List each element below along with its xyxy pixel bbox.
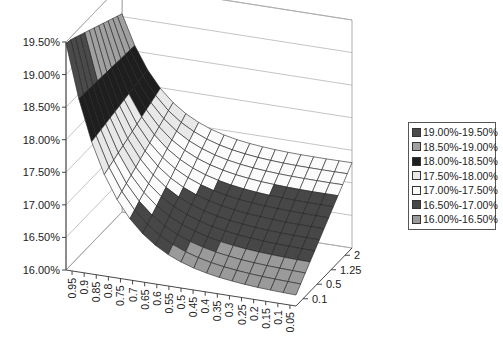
svg-text:0.6: 0.6	[151, 291, 163, 306]
legend-item: 16.00%-16.50%	[412, 212, 495, 227]
legend-item: 19.00%-19.50%	[412, 125, 495, 140]
legend-swatch-icon	[412, 142, 421, 151]
svg-text:0.5: 0.5	[175, 295, 187, 310]
svg-text:16.50%: 16.50%	[23, 231, 61, 243]
svg-text:17.00%: 17.00%	[23, 199, 61, 211]
svg-text:0.35: 0.35	[211, 301, 223, 322]
svg-text:0.1: 0.1	[272, 310, 284, 325]
svg-text:0.55: 0.55	[163, 293, 175, 314]
svg-text:0.95: 0.95	[66, 278, 78, 299]
legend-label: 16.00%-16.50%	[423, 213, 498, 225]
legend-label: 18.00%-18.50%	[423, 155, 498, 167]
legend-swatch-icon	[412, 157, 421, 166]
svg-text:0.75: 0.75	[114, 285, 126, 306]
legend-swatch-icon	[412, 171, 421, 180]
svg-text:0.1: 0.1	[312, 293, 327, 305]
svg-text:0.45: 0.45	[187, 297, 199, 318]
legend-swatch-icon	[412, 200, 421, 209]
svg-text:0.7: 0.7	[127, 287, 139, 302]
legend-swatch-icon	[412, 186, 421, 195]
svg-text:0.3: 0.3	[223, 302, 235, 317]
svg-text:1.25: 1.25	[340, 264, 361, 276]
legend: 19.00%-19.50%18.50%-19.00%18.00%-18.50%1…	[408, 122, 496, 230]
legend-swatch-icon	[412, 128, 421, 137]
legend-label: 16.50%-17.00%	[423, 199, 498, 211]
svg-text:19.50%: 19.50%	[23, 36, 61, 48]
svg-text:19.00%: 19.00%	[23, 69, 61, 81]
legend-item: 17.50%-18.00%	[412, 169, 495, 184]
svg-text:0.5: 0.5	[326, 278, 341, 290]
legend-item: 16.50%-17.00%	[412, 198, 495, 213]
legend-item: 18.50%-19.00%	[412, 140, 495, 155]
svg-text:0.85: 0.85	[90, 282, 102, 303]
svg-text:18.50%: 18.50%	[23, 101, 61, 113]
legend-label: 19.00%-19.50%	[423, 126, 498, 138]
legend-label: 18.50%-19.00%	[423, 141, 498, 153]
svg-text:0.25: 0.25	[236, 304, 248, 325]
svg-text:0.05: 0.05	[284, 312, 296, 333]
svg-text:2: 2	[354, 249, 360, 261]
legend-item: 17.00%-17.50%	[412, 183, 495, 198]
svg-text:0.2: 0.2	[248, 306, 260, 321]
legend-label: 17.00%-17.50%	[423, 184, 498, 196]
svg-text:0.8: 0.8	[102, 283, 114, 298]
svg-text:0.4: 0.4	[199, 299, 211, 314]
svg-text:17.50%: 17.50%	[23, 166, 61, 178]
svg-text:18.00%: 18.00%	[23, 134, 61, 146]
svg-text:16.00%: 16.00%	[23, 264, 61, 276]
legend-label: 17.50%-18.00%	[423, 170, 498, 182]
legend-item: 18.00%-18.50%	[412, 154, 495, 169]
svg-text:0.9: 0.9	[78, 280, 90, 295]
svg-text:0.65: 0.65	[139, 289, 151, 310]
svg-text:0.15: 0.15	[260, 308, 272, 329]
legend-swatch-icon	[412, 215, 421, 224]
